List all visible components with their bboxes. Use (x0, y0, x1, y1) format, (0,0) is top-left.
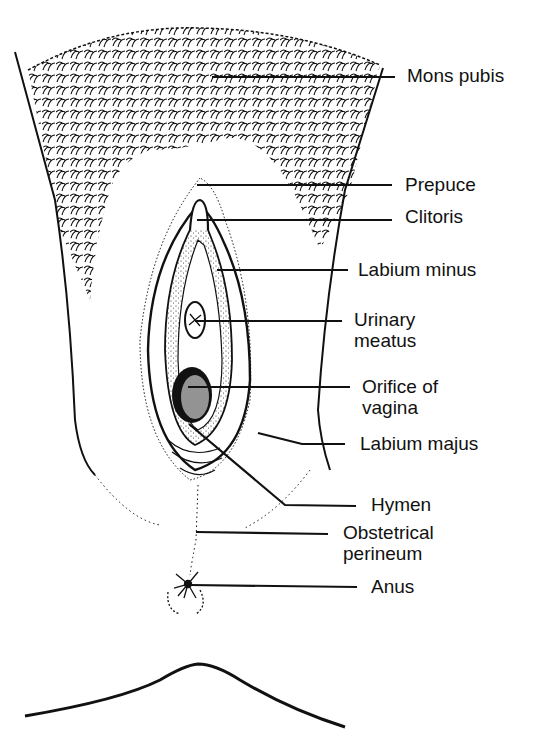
label-text: Labium minus (358, 259, 476, 280)
label-text: Mons pubis (407, 65, 504, 86)
anus-shape (168, 572, 203, 614)
label-clitoris: Clitoris (405, 206, 463, 227)
label-obstetrical-perineum: Obstetrical perineum (343, 522, 434, 564)
buttock-curve (25, 664, 345, 727)
label-text-line2: vagina (362, 397, 438, 418)
label-text-line2: meatus (354, 330, 416, 351)
label-text: Clitoris (405, 206, 463, 227)
label-text-line1: Orifice of (362, 376, 438, 397)
label-text: Hymen (371, 494, 431, 515)
label-text-line1: Obstetrical (343, 522, 434, 543)
label-text-line1: Urinary (354, 309, 416, 330)
clitoris-shape (190, 200, 208, 230)
label-labium-minus: Labium minus (358, 259, 476, 280)
label-anus: Anus (371, 576, 414, 597)
label-orifice-of-vagina: Orifice of vagina (362, 376, 438, 418)
label-urinary-meatus: Urinary meatus (354, 309, 416, 351)
label-text: Labium majus (360, 433, 478, 454)
label-prepuce: Prepuce (405, 174, 476, 195)
anatomy-drawing (0, 0, 535, 750)
label-text: Anus (371, 576, 414, 597)
label-text-line2: perineum (343, 543, 434, 564)
label-hymen: Hymen (371, 494, 431, 515)
label-text: Prepuce (405, 174, 476, 195)
label-labium-majus: Labium majus (360, 433, 478, 454)
label-mons-pubis: Mons pubis (407, 65, 504, 86)
